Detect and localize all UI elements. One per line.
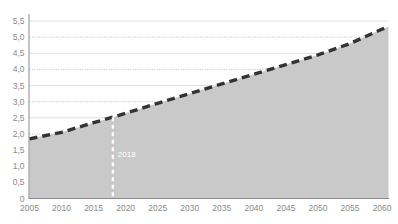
x-axis-tick-labels: 2005201020152020202520302035204020452050… xyxy=(20,203,392,213)
y-tick-label-3,0: 3,0 xyxy=(13,97,25,107)
y-tick-label-0,5: 0,5 xyxy=(13,177,25,187)
y-tick-label-3,5: 3,5 xyxy=(13,81,25,91)
x-tick-label-2045: 2045 xyxy=(276,203,295,213)
area-chart: 2018 00,51,01,52,02,53,03,54,04,55,05,5 … xyxy=(0,0,398,224)
x-tick-label-2030: 2030 xyxy=(180,203,199,213)
area-fill xyxy=(30,27,389,199)
marker-label-2018: 2018 xyxy=(118,150,136,159)
chart-container: 2018 00,51,01,52,02,53,03,54,04,55,05,5 … xyxy=(0,0,398,224)
y-tick-label-4,5: 4,5 xyxy=(13,48,25,58)
x-tick-label-2050: 2050 xyxy=(309,203,328,213)
y-tick-label-2,0: 2,0 xyxy=(13,129,25,139)
y-tick-label-1,5: 1,5 xyxy=(13,145,25,155)
y-tick-label-5,0: 5,0 xyxy=(13,32,25,42)
y-axis-tick-labels: 00,51,01,52,02,53,03,54,04,55,05,5 xyxy=(13,16,25,204)
area-fill-path xyxy=(30,27,389,199)
y-tick-label-4,0: 4,0 xyxy=(13,64,25,74)
y-tick-label-5,5: 5,5 xyxy=(13,16,25,26)
x-tick-label-2055: 2055 xyxy=(341,203,360,213)
x-tick-label-2020: 2020 xyxy=(116,203,135,213)
x-tick-label-2010: 2010 xyxy=(52,203,71,213)
y-tick-label-1,0: 1,0 xyxy=(13,161,25,171)
x-tick-label-2005: 2005 xyxy=(20,203,39,213)
x-tick-label-2040: 2040 xyxy=(244,203,263,213)
x-tick-label-2035: 2035 xyxy=(212,203,231,213)
x-tick-label-2060: 2060 xyxy=(373,203,392,213)
y-tick-label-2,5: 2,5 xyxy=(13,113,25,123)
x-tick-label-2025: 2025 xyxy=(148,203,167,213)
x-tick-label-2015: 2015 xyxy=(84,203,103,213)
